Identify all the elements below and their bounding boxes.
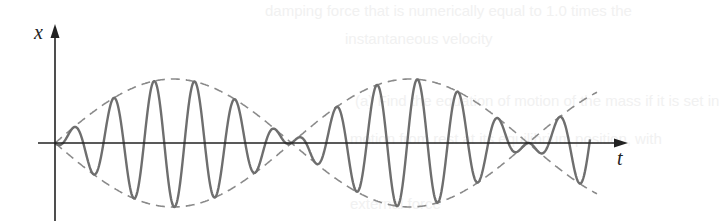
t-axis-label: t: [617, 147, 623, 169]
x-axis-label: x: [33, 21, 43, 43]
x-axis-arrow-icon: [51, 24, 60, 38]
